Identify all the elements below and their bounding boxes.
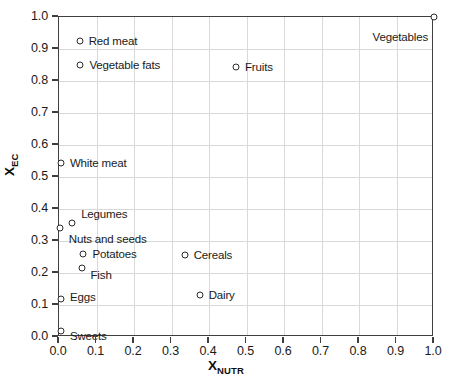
gridline-vertical <box>172 17 173 335</box>
x-axis-title: XNUTR <box>0 358 452 376</box>
data-point-label: Fruits <box>245 61 273 73</box>
x-tick-label: 0.6 <box>263 344 303 358</box>
data-point-marker[interactable] <box>76 38 83 45</box>
gridline-horizontal <box>59 81 432 82</box>
data-point-marker[interactable] <box>56 225 63 232</box>
y-tick-mark <box>52 239 58 241</box>
gridline-vertical <box>284 17 285 335</box>
x-tick-mark <box>432 337 434 343</box>
gridline-vertical <box>209 17 210 335</box>
y-tick-label: 0.3 <box>2 233 48 247</box>
y-tick-mark <box>52 15 58 17</box>
gridline-horizontal <box>59 49 432 50</box>
y-tick-label: 0.2 <box>2 265 48 279</box>
y-tick-mark <box>52 47 58 49</box>
y-tick-mark <box>52 143 58 145</box>
x-tick-mark <box>207 337 209 343</box>
x-axis-subscript: NUTR <box>217 365 244 376</box>
x-tick-label: 0.0 <box>38 344 78 358</box>
data-point-marker[interactable] <box>69 220 76 227</box>
y-tick-label: 0.7 <box>2 105 48 119</box>
data-point-label: Sweets <box>70 330 107 342</box>
y-tick-mark <box>52 303 58 305</box>
scatter-chart-figure: VegetablesRed meatVegetable fatsFruitsWh… <box>0 0 452 382</box>
x-tick-mark <box>357 337 359 343</box>
data-point-marker[interactable] <box>233 63 240 70</box>
x-tick-label: 0.8 <box>338 344 378 358</box>
gridline-vertical <box>359 17 360 335</box>
gridline-horizontal <box>59 273 432 274</box>
data-point-marker[interactable] <box>80 250 87 257</box>
data-point-marker[interactable] <box>181 252 188 259</box>
data-point-label: Eggs <box>70 291 96 303</box>
x-tick-mark <box>320 337 322 343</box>
gridline-horizontal <box>59 177 432 178</box>
x-tick-label: 0.3 <box>151 344 191 358</box>
data-point-marker[interactable] <box>78 265 85 272</box>
gridline-vertical <box>322 17 323 335</box>
x-tick-mark <box>245 337 247 343</box>
y-tick-label: 0.8 <box>2 73 48 87</box>
x-tick-mark <box>282 337 284 343</box>
y-tick-label: 0.6 <box>2 137 48 151</box>
y-tick-label: 0.4 <box>2 201 48 215</box>
data-point-marker[interactable] <box>77 62 84 69</box>
y-tick-mark <box>52 79 58 81</box>
y-tick-mark <box>52 271 58 273</box>
x-tick-label: 0.9 <box>376 344 416 358</box>
y-axis-title: XEC <box>2 153 20 176</box>
data-point-label: Potatoes <box>92 248 136 260</box>
data-point-label: Dairy <box>209 289 235 301</box>
data-point-marker[interactable] <box>196 292 203 299</box>
x-tick-mark <box>57 337 59 343</box>
x-tick-label: 1.0 <box>413 344 452 358</box>
x-tick-mark <box>170 337 172 343</box>
plot-area: VegetablesRed meatVegetable fatsFruitsWh… <box>58 16 433 336</box>
gridline-vertical <box>397 17 398 335</box>
data-point-label: Vegetables <box>373 31 428 43</box>
y-tick-label: 1.0 <box>2 9 48 23</box>
x-tick-mark <box>395 337 397 343</box>
x-tick-label: 0.2 <box>113 344 153 358</box>
y-tick-label: 0.1 <box>2 297 48 311</box>
data-point-label: Cereals <box>194 249 233 261</box>
data-point-label: Red meat <box>89 35 138 47</box>
y-tick-mark <box>52 111 58 113</box>
data-point-label: Fish <box>91 269 112 281</box>
data-point-marker[interactable] <box>57 159 64 166</box>
data-point-marker[interactable] <box>57 327 64 334</box>
gridline-horizontal <box>59 113 432 114</box>
y-tick-mark <box>52 175 58 177</box>
gridline-horizontal <box>59 145 432 146</box>
x-tick-label: 0.7 <box>301 344 341 358</box>
data-point-label: Nuts and seeds <box>69 233 147 245</box>
data-point-label: Vegetable fats <box>89 59 160 71</box>
y-axis-subscript: EC <box>9 153 20 167</box>
x-tick-label: 0.4 <box>188 344 228 358</box>
data-point-label: White meat <box>70 157 127 169</box>
x-tick-mark <box>95 337 97 343</box>
y-tick-label: 0.9 <box>2 41 48 55</box>
data-point-marker[interactable] <box>431 14 438 21</box>
data-point-marker[interactable] <box>57 295 64 302</box>
x-tick-label: 0.5 <box>226 344 266 358</box>
data-point-label: Legumes <box>81 208 127 220</box>
y-tick-mark <box>52 207 58 209</box>
y-tick-label: 0.0 <box>2 329 48 343</box>
gridline-horizontal <box>59 305 432 306</box>
x-tick-mark <box>132 337 134 343</box>
x-tick-label: 0.1 <box>76 344 116 358</box>
